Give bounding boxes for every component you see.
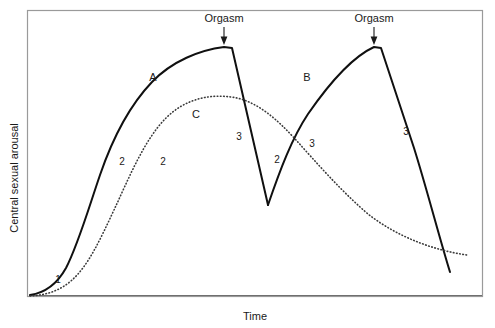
- stage-number-3-curve-a: 3: [236, 131, 242, 142]
- curve-label-b: B: [303, 71, 310, 83]
- x-axis-label: Time: [243, 310, 267, 322]
- orgasm-label-second: Orgasm: [354, 12, 393, 24]
- chart-figure: Central sexual arousal Time Orgasm Orgas…: [0, 0, 495, 328]
- stage-number-2-curve-b: 2: [274, 154, 280, 165]
- orgasm-label-first: Orgasm: [204, 12, 243, 24]
- y-axis-label: Central sexual arousal: [8, 123, 20, 232]
- stage-number-2-curve-a: 2: [119, 156, 125, 167]
- stage-number-3-curve-c: 3: [309, 138, 315, 149]
- curve-label-c: C: [192, 108, 200, 120]
- stage-number-1: 1: [55, 274, 61, 285]
- curve-label-a: A: [149, 71, 157, 83]
- arousal-response-chart: Central sexual arousal Time Orgasm Orgas…: [0, 0, 495, 328]
- stage-number-3-curve-b: 3: [403, 126, 409, 137]
- stage-number-2-curve-c: 2: [160, 156, 166, 167]
